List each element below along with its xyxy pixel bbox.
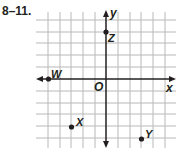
point-z-label: Z xyxy=(108,32,115,44)
y-axis-label: y xyxy=(110,6,117,20)
y-axis-arrow-down-icon xyxy=(103,141,109,148)
point-y xyxy=(139,136,144,141)
x-axis-label: x xyxy=(166,81,173,95)
point-x-label: X xyxy=(76,116,83,128)
x-axis-arrow-left-icon xyxy=(36,76,43,82)
point-w-label: W xyxy=(51,68,61,80)
coordinate-plane xyxy=(0,0,186,156)
y-axis-arrow-up-icon xyxy=(103,10,109,17)
origin-label: O xyxy=(94,80,103,94)
point-y-label: Y xyxy=(145,128,152,140)
point-x xyxy=(69,124,74,129)
